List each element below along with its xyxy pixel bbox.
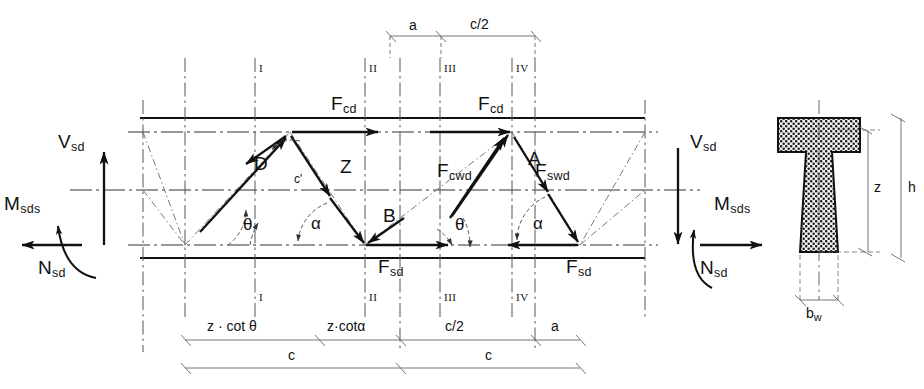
vector-Z (291, 136, 330, 196)
section-marker-top-IV: IV (516, 63, 529, 74)
label-Fsd-left: Fsd (378, 257, 404, 279)
label-theta-right: θ (455, 216, 464, 233)
label-Fsd-right: Fsd (566, 257, 592, 279)
arc-theta-right (437, 229, 452, 245)
diagram-canvas: a c/2 I II III IV I II III IV Fcd Fcd Fs… (0, 0, 924, 389)
section-marker-bottom-IV: IV (516, 292, 529, 303)
section-marker-bottom-III: III (444, 292, 457, 303)
label-Fcwd: Fcwd (437, 161, 472, 183)
top-dimension-line (386, 31, 541, 58)
label-Fcd-left: Fcd (331, 94, 357, 116)
label-node-D: D (254, 154, 268, 173)
dim-top-c-half: c/2 (470, 17, 489, 31)
label-Vsd-right: Vsd (690, 132, 717, 154)
label-Nsd-left: Nsd (38, 258, 66, 280)
label-angle-c-prime: c' (294, 173, 302, 185)
vector-Z-lower (330, 198, 364, 243)
vector-Fswd-lower (548, 194, 578, 242)
label-alpha-left: α (311, 215, 321, 232)
dim-c-left: c (288, 348, 295, 362)
label-Msds-right: Msds (714, 194, 751, 216)
label-node-B: B (383, 206, 396, 225)
section-marker-bottom-II: II (369, 292, 377, 303)
dim-c-right: c (485, 348, 492, 362)
label-theta-left: θ (243, 216, 252, 233)
section-marker-top-II: II (369, 63, 377, 74)
dim-z-cot-theta: z · cot θ (207, 319, 257, 333)
label-Msds-left: Msds (4, 194, 41, 216)
label-section-h: h (908, 180, 916, 194)
label-Vsd-left: Vsd (58, 132, 85, 154)
label-section-bw: bw (806, 306, 822, 323)
section-marker-bottom-I: I (259, 292, 263, 303)
bottom-dimension-lines (181, 335, 586, 374)
section-marker-top-I: I (259, 63, 263, 74)
force-vectors (200, 132, 578, 245)
label-node-Z: Z (340, 157, 352, 176)
dim-z-cot-alpha: z·cotα (327, 319, 365, 333)
cross-section-tbeam (778, 100, 905, 306)
beam-outline (140, 118, 645, 258)
label-section-z: z (874, 180, 881, 194)
section-marker-top-III: III (444, 63, 457, 74)
dim-a-bottom: a (551, 319, 559, 333)
label-Fcd-right: Fcd (478, 94, 504, 116)
chord-axes (70, 132, 700, 245)
dim-top-a: a (409, 18, 417, 32)
label-alpha-right: α (533, 215, 543, 232)
dim-c-half-bottom: c/2 (445, 319, 464, 333)
label-Nsd-right: Nsd (700, 258, 728, 280)
label-node-A: A (528, 149, 541, 168)
